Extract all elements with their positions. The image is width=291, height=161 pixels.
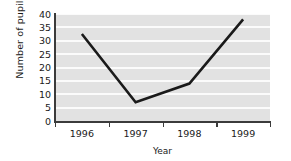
y-tick-label: 25 xyxy=(26,49,51,60)
y-tick-label: 0 xyxy=(26,116,51,127)
y-tick-label: 5 xyxy=(26,102,51,113)
x-tick-mark xyxy=(55,122,56,127)
x-tick-label: 1998 xyxy=(162,128,216,140)
y-axis-tick-labels: 0510152025303540 xyxy=(26,9,51,125)
x-tick-mark xyxy=(109,122,110,127)
y-axis-title: Number of pupils xyxy=(13,0,27,97)
y-tick-label: 30 xyxy=(26,35,51,46)
x-tick-mark xyxy=(163,122,164,127)
y-tick-label: 10 xyxy=(26,89,51,100)
y-tick-label: 20 xyxy=(26,62,51,73)
y-tick-label: 40 xyxy=(26,9,51,20)
x-tick-mark xyxy=(216,122,217,127)
x-tick-label: 1999 xyxy=(216,128,270,140)
y-tick-label: 35 xyxy=(26,22,51,33)
plot-area xyxy=(55,14,270,121)
y-axis-spine xyxy=(54,13,56,122)
x-axis-title: Year xyxy=(55,145,270,157)
y-tick-label: 15 xyxy=(26,75,51,86)
data-series-line xyxy=(55,14,270,121)
line-chart-figure: Number of pupils 0510152025303540 199619… xyxy=(0,0,291,161)
x-tick-label: 1996 xyxy=(55,128,109,140)
x-tick-mark xyxy=(270,122,271,127)
x-tick-label: 1997 xyxy=(109,128,163,140)
